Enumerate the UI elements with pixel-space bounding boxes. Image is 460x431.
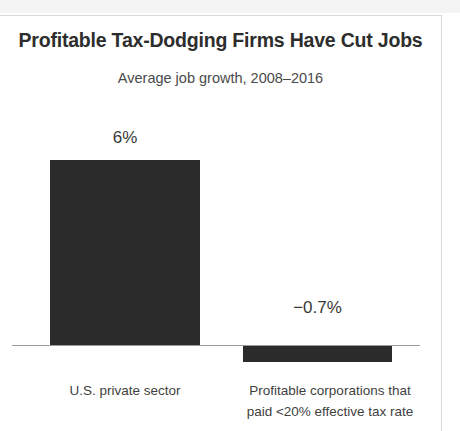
- bar-profitable-corporations: [243, 346, 392, 362]
- chart-page: Profitable Tax-Dodging Firms Have Cut Jo…: [0, 0, 460, 431]
- category-label-line-2: paid <20% effective tax rate: [218, 401, 442, 422]
- plot-area: 6% −0.7% U.S. private sector Profitable …: [0, 0, 460, 431]
- category-label-us-private-sector: U.S. private sector: [25, 380, 225, 401]
- bar-us-private-sector: [50, 160, 200, 345]
- value-label-profitable-corporations: −0.7%: [243, 298, 392, 318]
- category-label-profitable-corporations: Profitable corporations that paid <20% e…: [218, 380, 442, 422]
- category-label-line-1: Profitable corporations that: [218, 380, 442, 401]
- value-label-us-private-sector: 6%: [50, 128, 200, 148]
